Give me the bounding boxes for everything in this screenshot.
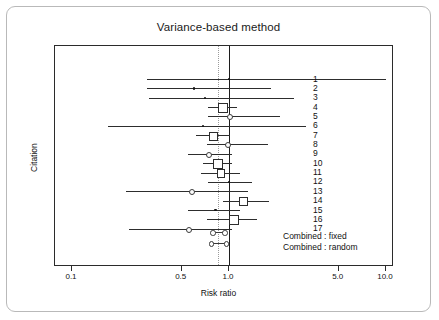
point-estimate-square — [218, 103, 228, 113]
point-estimate-circle — [206, 152, 212, 158]
plot-area: 1234567891011121314151617 Combined : fix… — [54, 45, 393, 266]
point-estimate-circle — [225, 142, 231, 148]
legend-fixed-label: Combined : fixed — [283, 231, 347, 241]
point-estimate-square — [213, 159, 224, 170]
point-estimate-dot — [202, 125, 204, 127]
x-axis-tick — [181, 266, 182, 271]
combined-ci-upper-circle — [224, 241, 229, 246]
point-estimate-square — [229, 215, 239, 225]
y-axis-title: Citation — [29, 143, 39, 172]
legend-random-label: Combined : random — [283, 242, 358, 252]
point-estimate-square — [217, 169, 225, 177]
x-axis-tick-label: 5.0 — [318, 272, 358, 281]
confidence-interval-line — [108, 126, 306, 127]
point-estimate-circle — [227, 114, 233, 120]
confidence-interval-line — [147, 88, 271, 89]
combined-ci-upper-circle — [222, 230, 227, 235]
figure-panel: Variance-based method Citation 123456789… — [6, 6, 431, 312]
point-estimate-dot — [204, 97, 206, 99]
confidence-interval-line — [126, 191, 248, 192]
point-estimate-dot — [193, 87, 195, 89]
confidence-interval-line — [147, 79, 386, 80]
point-estimate-square — [239, 197, 248, 206]
x-axis-tick — [71, 266, 72, 271]
confidence-interval-line — [207, 144, 269, 145]
chart-title: Variance-based method — [7, 21, 430, 33]
x-axis-tick — [338, 266, 339, 271]
x-axis-tick-label: 10.0 — [365, 272, 405, 281]
combined-ci-lower-circle — [209, 241, 214, 246]
point-estimate-square — [209, 132, 218, 141]
confidence-interval-line — [129, 229, 233, 230]
point-estimate-circle — [186, 227, 192, 233]
confidence-interval-line — [208, 116, 280, 117]
x-axis-tick — [228, 266, 229, 271]
point-estimate-dot — [214, 209, 217, 212]
x-axis-tick-label: 0.5 — [161, 272, 201, 281]
x-axis-title: Risk ratio — [7, 288, 430, 298]
x-axis-tick-label: 0.1 — [51, 272, 91, 281]
x-axis-tick — [385, 266, 386, 271]
combined-ci-lower-circle — [210, 230, 215, 235]
x-axis-tick-label: 1.0 — [208, 272, 248, 281]
point-estimate-circle — [189, 189, 195, 195]
confidence-interval-line — [149, 98, 294, 99]
